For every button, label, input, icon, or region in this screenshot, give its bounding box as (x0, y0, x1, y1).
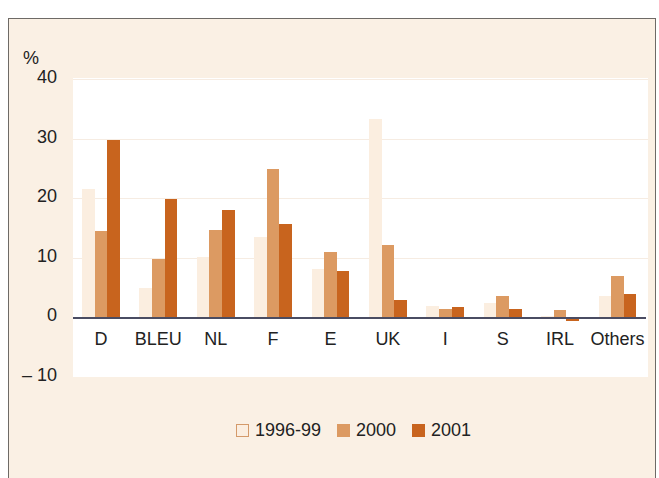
y-tick-label: 40 (0, 67, 57, 87)
bar-d-2000 (95, 231, 108, 317)
legend-swatch-icon (412, 424, 425, 437)
y-tick-label: 0 (0, 305, 57, 325)
bar-bleu-2001 (165, 199, 178, 317)
bar-irl-2000 (554, 310, 567, 317)
bar-s-2001 (509, 309, 522, 317)
bar-d-2001 (107, 140, 120, 317)
bar-uk-2000 (382, 245, 395, 317)
legend-item: 1996-99 (236, 420, 321, 441)
bar-f-1996-99 (254, 237, 267, 317)
bar-uk-2001 (394, 300, 407, 317)
bar-e-2000 (324, 252, 337, 317)
y-tick-label: – 10 (0, 365, 57, 385)
bar-nl-1996-99 (197, 257, 210, 317)
bar-f-2000 (267, 169, 280, 317)
legend-label: 1996-99 (255, 420, 321, 441)
legend-swatch-icon (337, 424, 350, 437)
bar-i-2000 (439, 309, 452, 317)
legend-label: 2000 (356, 420, 396, 441)
bar-e-1996-99 (312, 269, 325, 317)
y-axis-unit: % (23, 48, 39, 69)
legend-swatch-icon (236, 424, 249, 437)
y-tick-label: 20 (0, 186, 57, 206)
gridline (73, 139, 648, 140)
legend-item: 2000 (337, 420, 396, 441)
gridline (73, 198, 648, 199)
legend-item: 2001 (412, 420, 471, 441)
x-tick-label: Others (583, 328, 653, 350)
legend: 1996-9920002001 (0, 420, 659, 441)
bar-others-1996-99 (599, 296, 612, 317)
bar-others-2000 (611, 276, 624, 317)
bar-e-2001 (337, 271, 350, 317)
bar-s-1996-99 (484, 303, 497, 317)
bar-bleu-1996-99 (139, 288, 152, 317)
bar-i-2001 (452, 307, 465, 317)
bar-bleu-2000 (152, 259, 165, 317)
bar-d-1996-99 (82, 189, 95, 317)
y-tick-label: 30 (0, 127, 57, 147)
zero-baseline (73, 317, 646, 319)
y-tick-label: 10 (0, 246, 57, 266)
bar-nl-2001 (222, 210, 235, 317)
bar-f-2001 (279, 224, 292, 317)
bar-i-1996-99 (426, 306, 439, 317)
bar-s-2000 (496, 296, 509, 317)
gridline (73, 79, 648, 80)
legend-label: 2001 (431, 420, 471, 441)
bar-others-2001 (624, 294, 637, 317)
bar-nl-2000 (209, 230, 222, 317)
bar-uk-1996-99 (369, 119, 382, 317)
